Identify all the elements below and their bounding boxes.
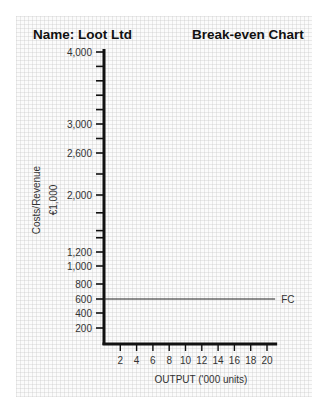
y-axis-label: Costs/Revenue€1,000 xyxy=(31,165,59,234)
x-tick-label: 16 xyxy=(229,355,241,366)
y-tick-label: 200 xyxy=(75,323,92,334)
y-tick-label: 600 xyxy=(75,294,92,305)
y-tick-label: 4,000 xyxy=(67,47,92,58)
y-tick-label: 400 xyxy=(75,308,92,319)
x-tick-label: 20 xyxy=(261,355,273,366)
y-tick-label: 1,000 xyxy=(67,261,92,272)
fc-label: FC xyxy=(281,294,294,305)
x-tick-label: 6 xyxy=(150,355,156,366)
y-tick-label: 3,000 xyxy=(67,119,92,130)
x-tick-label: 12 xyxy=(196,355,208,366)
y-axis-label-line1: Costs/Revenue xyxy=(31,165,42,234)
y-tick-label: 1,200 xyxy=(67,247,92,258)
x-tick-label: 14 xyxy=(213,355,225,366)
y-tick-label: 2,600 xyxy=(67,148,92,159)
x-tick-label: 8 xyxy=(166,355,172,366)
y-axis-label-line2: €1,000 xyxy=(48,184,59,215)
x-tick-label: 4 xyxy=(134,355,140,366)
x-axis-label: OUTPUT ('000 units) xyxy=(155,374,248,385)
x-tick-label: 10 xyxy=(180,355,192,366)
x-tick-label: 18 xyxy=(245,355,257,366)
chart-canvas: 2004006008001,0001,2002,0002,6003,0004,0… xyxy=(0,0,322,408)
y-tick-label: 800 xyxy=(75,279,92,290)
y-tick-label: 2,000 xyxy=(67,190,92,201)
x-tick-label: 2 xyxy=(118,355,124,366)
